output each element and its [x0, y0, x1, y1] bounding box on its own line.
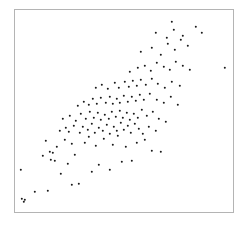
plot-frame	[14, 9, 234, 213]
scatter-plot-figure	[0, 0, 246, 225]
